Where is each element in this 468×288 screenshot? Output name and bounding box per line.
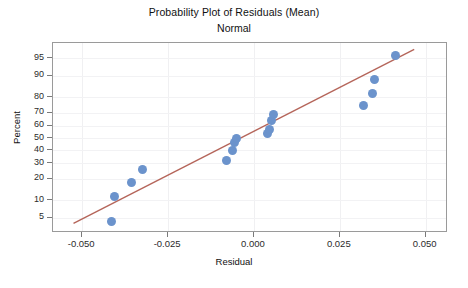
y-tick-mark xyxy=(47,125,52,126)
y-tick-label: 10 xyxy=(0,195,44,204)
y-tick-mark xyxy=(47,149,52,150)
y-tick-mark xyxy=(47,96,52,97)
y-tick-label: 5 xyxy=(0,212,44,221)
chart-title: Probability Plot of Residuals (Mean) xyxy=(0,6,468,18)
x-tick-label: -0.025 xyxy=(137,238,197,249)
data-point xyxy=(265,125,274,134)
data-point xyxy=(368,89,377,98)
x-tick-label: 0.050 xyxy=(395,238,455,249)
x-tick-mark xyxy=(253,232,254,237)
y-tick-label: 95 xyxy=(0,53,44,62)
y-tick-mark xyxy=(47,162,52,163)
y-tick-label: 30 xyxy=(0,158,44,167)
y-tick-mark xyxy=(47,199,52,200)
plot-area xyxy=(52,42,447,232)
data-point xyxy=(269,110,278,119)
y-tick-label: 40 xyxy=(0,145,44,154)
data-point xyxy=(222,156,231,165)
y-tick-label: 80 xyxy=(0,92,44,101)
x-tick-mark xyxy=(425,232,426,237)
data-point xyxy=(127,178,136,187)
y-tick-label: 50 xyxy=(0,133,44,142)
y-tick-mark xyxy=(47,137,52,138)
y-tick-label: 70 xyxy=(0,107,44,116)
y-axis: 510203040506070809095 xyxy=(0,0,44,288)
y-tick-mark xyxy=(47,112,52,113)
x-tick-label: 0.000 xyxy=(223,238,283,249)
data-point xyxy=(110,192,119,201)
x-tick-mark xyxy=(81,232,82,237)
probability-plot: Probability Plot of Residuals (Mean) Nor… xyxy=(0,0,468,288)
y-axis-title: Percent xyxy=(11,98,22,158)
y-tick-mark xyxy=(47,57,52,58)
x-tick-label: 0.025 xyxy=(309,238,369,249)
y-tick-label: 20 xyxy=(0,173,44,182)
x-tick-mark xyxy=(339,232,340,237)
y-tick-mark xyxy=(47,217,52,218)
data-point xyxy=(232,134,241,143)
x-axis-title: Residual xyxy=(0,256,468,267)
y-tick-label: 90 xyxy=(0,70,44,79)
x-tick-label: -0.050 xyxy=(51,238,111,249)
y-tick-mark xyxy=(47,75,52,76)
reference-line-segment xyxy=(74,49,415,223)
normal-fit-line xyxy=(53,43,446,231)
y-tick-label: 60 xyxy=(0,120,44,129)
y-tick-mark xyxy=(47,178,52,179)
chart-subtitle: Normal xyxy=(0,22,468,34)
x-tick-mark xyxy=(167,232,168,237)
